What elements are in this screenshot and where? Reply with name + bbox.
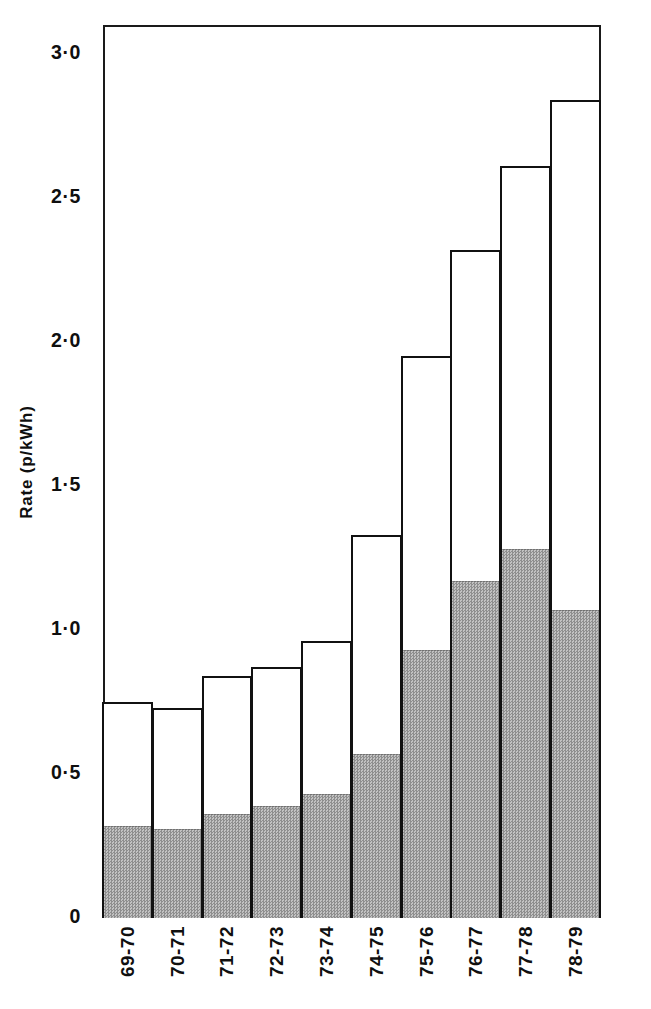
x-label-cell: 77-78: [501, 922, 551, 1008]
bar-total-segment: [450, 250, 501, 918]
y-tick-label: 2·5: [0, 185, 81, 208]
y-axis-title: Rate (p/kWh): [17, 347, 37, 577]
bar-total-segment: [251, 667, 302, 918]
bar-78-79: [551, 25, 601, 918]
bar-lower-segment: [353, 754, 400, 918]
y-tick-label: 1·0: [0, 617, 81, 640]
bar-total-segment: [301, 641, 352, 918]
bar-76-77: [452, 25, 502, 918]
x-tick-label-74-75: 74-75: [366, 926, 388, 977]
y-tick-label: 2·0: [0, 329, 81, 352]
x-label-cell: 69-70: [103, 922, 153, 1008]
bar-72-73: [252, 25, 302, 918]
x-tick-label-76-77: 76-77: [465, 926, 487, 977]
x-label-cell: 73-74: [302, 922, 352, 1008]
bar-74-75: [352, 25, 402, 918]
x-tick-label-72-73: 72-73: [266, 926, 288, 977]
bar-70-71: [153, 25, 203, 918]
y-tick-label: 0·5: [0, 761, 81, 784]
y-tick-label: 3·0: [0, 41, 81, 64]
x-tick-label-78-79: 78-79: [565, 926, 587, 977]
bar-total-segment: [351, 535, 402, 918]
x-tick-label-75-76: 75-76: [416, 926, 438, 977]
y-tick-label: 0: [0, 905, 81, 928]
x-tick-label-69-70: 69-70: [117, 926, 139, 977]
x-label-cell: 75-76: [402, 922, 452, 1008]
bar-total-segment: [550, 100, 601, 918]
bar-lower-segment: [154, 829, 201, 918]
bar-lower-segment: [502, 549, 549, 918]
bar-chart-figure: Rate (p/kWh) 00·51·01·52·02·53·0 69-7070…: [0, 0, 651, 1009]
bar-77-78: [501, 25, 551, 918]
x-label-cell: 71-72: [203, 922, 253, 1008]
x-label-cell: 76-77: [452, 922, 502, 1008]
x-tick-label-70-71: 70-71: [167, 926, 189, 977]
x-label-cell: 78-79: [551, 922, 601, 1008]
bar-69-70: [103, 25, 153, 918]
bar-lower-segment: [452, 581, 499, 918]
bar-71-72: [203, 25, 253, 918]
bar-total-segment: [102, 702, 153, 918]
bar-lower-segment: [303, 794, 350, 918]
x-tick-label-77-78: 77-78: [515, 926, 537, 977]
bar-lower-segment: [253, 806, 300, 918]
bar-lower-segment: [204, 814, 251, 918]
bar-lower-segment: [403, 650, 450, 918]
bar-lower-segment: [104, 826, 151, 918]
bar-lower-segment: [552, 610, 599, 918]
x-label-cell: 70-71: [153, 922, 203, 1008]
x-axis-labels: 69-7070-7171-7272-7373-7474-7575-7676-77…: [103, 922, 601, 1008]
bars-group: [103, 25, 601, 918]
bar-total-segment: [401, 356, 452, 918]
x-tick-label-71-72: 71-72: [216, 926, 238, 977]
bar-total-segment: [152, 708, 203, 918]
bar-75-76: [402, 25, 452, 918]
x-label-cell: 74-75: [352, 922, 402, 1008]
bar-total-segment: [500, 166, 551, 918]
bar-total-segment: [202, 676, 253, 918]
y-tick-label: 1·5: [0, 473, 81, 496]
x-label-cell: 72-73: [252, 922, 302, 1008]
x-tick-label-73-74: 73-74: [316, 926, 338, 977]
bar-73-74: [302, 25, 352, 918]
